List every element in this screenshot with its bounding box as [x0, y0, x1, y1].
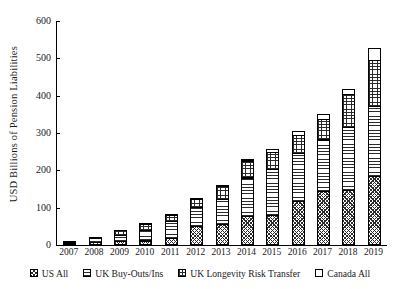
- stacked-bar[interactable]: [63, 241, 76, 245]
- legend-item-us-all[interactable]: US All: [30, 268, 68, 279]
- bar-column-2007[interactable]: [57, 21, 82, 245]
- stacked-bar-chart-figure: USD Billions of Pension Liabilities 6005…: [0, 0, 400, 289]
- bar-segment-uk-longevity-risk-transfer: [368, 60, 381, 107]
- x-axis-label-2018: 2018: [335, 247, 360, 261]
- bar-segment-us-all: [89, 242, 102, 245]
- legend-label-canada-all: Canada All: [327, 268, 370, 279]
- legend-swatch-uk-longevity-risk-transfer: [178, 269, 186, 277]
- x-axis-label-2016: 2016: [285, 247, 310, 261]
- x-axis-label-2017: 2017: [310, 247, 335, 261]
- bar-segment-us-all: [165, 238, 178, 245]
- stacked-bar[interactable]: [165, 215, 178, 245]
- stacked-bar[interactable]: [317, 115, 330, 245]
- x-axis-label-2012: 2012: [183, 247, 208, 261]
- bar-column-2012[interactable]: [184, 21, 209, 245]
- bar-column-2014[interactable]: [235, 21, 260, 245]
- stacked-bar[interactable]: [190, 198, 203, 245]
- bar-segment-us-all: [190, 226, 203, 245]
- legend-label-uk-buy-outs-ins: UK Buy-Outs/Ins: [95, 268, 163, 279]
- bar-column-2011[interactable]: [159, 21, 184, 245]
- bar-segment-uk-longevity-risk-transfer: [216, 186, 229, 200]
- legend-swatch-canada-all: [315, 269, 323, 277]
- legend-item-canada-all[interactable]: Canada All: [315, 268, 370, 279]
- x-axis-tick-labels: 2007200820092010201120122013201420152016…: [56, 247, 386, 261]
- stacked-bar[interactable]: [266, 150, 279, 245]
- bar-segment-uk-buy-outs-ins: [216, 199, 229, 225]
- bar-segment-uk-longevity-risk-transfer: [317, 119, 330, 141]
- stacked-bar[interactable]: [216, 186, 229, 245]
- bar-segment-us-all: [63, 243, 76, 245]
- x-axis-label-2007: 2007: [56, 247, 81, 261]
- x-axis-label-2011: 2011: [158, 247, 183, 261]
- x-axis-label-2009: 2009: [107, 247, 132, 261]
- y-axis-tick-mark: [57, 245, 61, 246]
- bar-segment-canada-all: [368, 48, 381, 61]
- x-axis-label-2010: 2010: [132, 247, 157, 261]
- bar-segment-uk-longevity-risk-transfer: [292, 135, 305, 154]
- chart-legend: US AllUK Buy-Outs/InsUK Longevity Risk T…: [0, 264, 400, 282]
- bar-segment-us-all: [139, 241, 152, 245]
- bar-column-2015[interactable]: [260, 21, 285, 245]
- bar-column-2018[interactable]: [336, 21, 361, 245]
- bar-segment-us-all: [368, 176, 381, 245]
- bar-segment-us-all: [114, 241, 127, 245]
- bar-column-2008[interactable]: [82, 21, 107, 245]
- bar-segment-uk-buy-outs-ins: [292, 153, 305, 202]
- bar-group: [57, 21, 387, 245]
- bar-segment-uk-buy-outs-ins: [342, 127, 355, 190]
- bar-column-2013[interactable]: [209, 21, 234, 245]
- bar-segment-uk-buy-outs-ins: [266, 169, 279, 216]
- x-axis-label-2014: 2014: [234, 247, 259, 261]
- bar-column-2016[interactable]: [286, 21, 311, 245]
- bar-segment-uk-longevity-risk-transfer: [342, 94, 355, 128]
- bar-segment-uk-buy-outs-ins: [241, 178, 254, 217]
- bar-segment-us-all: [266, 215, 279, 245]
- bar-segment-uk-buy-outs-ins: [317, 140, 330, 192]
- x-axis-label-2008: 2008: [81, 247, 106, 261]
- x-axis-label-2015: 2015: [259, 247, 284, 261]
- y-axis-title: USD Billions of Pension Liabilities: [4, 0, 22, 248]
- bar-column-2009[interactable]: [108, 21, 133, 245]
- stacked-bar[interactable]: [114, 231, 127, 245]
- bar-column-2017[interactable]: [311, 21, 336, 245]
- legend-item-uk-longevity-risk-transfer[interactable]: UK Longevity Risk Transfer: [178, 268, 300, 279]
- bar-segment-us-all: [241, 216, 254, 245]
- stacked-bar[interactable]: [89, 237, 102, 245]
- x-axis-label-2013: 2013: [208, 247, 233, 261]
- bar-segment-uk-longevity-risk-transfer: [241, 161, 254, 179]
- bar-segment-uk-buy-outs-ins: [190, 207, 203, 228]
- bar-segment-us-all: [317, 191, 330, 245]
- plot-area: 6005004003002001000: [56, 21, 387, 246]
- legend-label-uk-longevity-risk-transfer: UK Longevity Risk Transfer: [190, 268, 300, 279]
- stacked-bar[interactable]: [139, 224, 152, 245]
- bar-segment-us-all: [342, 190, 355, 245]
- y-axis-title-text: USD Billions of Pension Liabilities: [8, 46, 19, 202]
- bar-segment-us-all: [216, 224, 229, 245]
- bar-segment-uk-buy-outs-ins: [165, 221, 178, 239]
- bar-segment-us-all: [292, 201, 305, 245]
- bar-column-2010[interactable]: [133, 21, 158, 245]
- bar-column-2019[interactable]: [362, 21, 387, 245]
- bar-segment-uk-buy-outs-ins: [368, 106, 381, 177]
- stacked-bar[interactable]: [342, 90, 355, 245]
- x-axis-label-2019: 2019: [361, 247, 386, 261]
- legend-swatch-uk-buy-outs-ins: [83, 269, 91, 277]
- stacked-bar[interactable]: [241, 160, 254, 245]
- legend-swatch-us-all: [30, 269, 38, 277]
- legend-item-uk-buy-outs-ins[interactable]: UK Buy-Outs/Ins: [83, 268, 163, 279]
- legend-label-us-all: US All: [42, 268, 68, 279]
- stacked-bar[interactable]: [368, 49, 381, 245]
- bar-segment-uk-longevity-risk-transfer: [266, 152, 279, 171]
- stacked-bar[interactable]: [292, 132, 305, 245]
